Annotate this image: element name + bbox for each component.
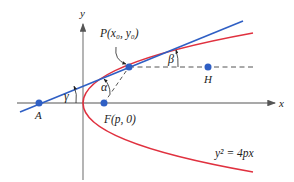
label-P: P(x₀, y₀) [99, 27, 139, 40]
label-beta: β [167, 52, 174, 66]
label-alpha: α [101, 80, 108, 94]
label-gamma: γ [64, 89, 69, 103]
curve-equation-label: y² = 4px [214, 147, 255, 160]
label-F: F(p, 0) [103, 113, 136, 126]
beta-arc [176, 50, 178, 67]
point-P [126, 64, 133, 71]
point-A [36, 100, 43, 107]
p-pointer-arrow [116, 47, 126, 64]
point-F [101, 100, 108, 107]
label-A: A [34, 109, 42, 121]
y-axis-label: y [79, 7, 85, 19]
label-H: H [203, 73, 213, 85]
x-axis-label: x [278, 97, 284, 109]
parabola-diagram: x y P(x₀, y₀) F(p, 0) A H α β γ y² = 4px [0, 0, 294, 182]
point-H [205, 64, 212, 71]
